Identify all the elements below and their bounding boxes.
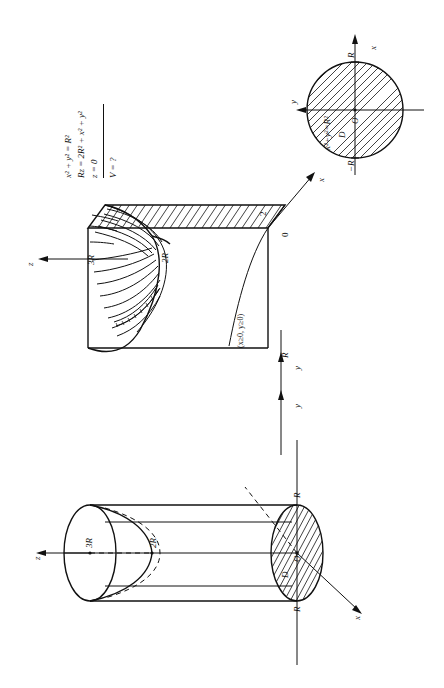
cylinder-origin-label: O	[292, 556, 302, 563]
cylinder-label-2R: 2R	[148, 538, 158, 548]
cylinder-label-R-bottom: R	[292, 607, 302, 613]
cylinder-paraboloid	[36, 505, 297, 601]
figure-page: x² + y² = R² Rz = 2R² + x² + y² z = 0 V …	[0, 0, 444, 688]
cylinder-axis-x-label: x	[352, 616, 362, 620]
cylinder-label-R-top: R	[292, 493, 302, 499]
cylinder-region-label: D	[280, 572, 290, 579]
cylinder-axis-z-label: z	[32, 556, 42, 560]
cylinder-label-3R: 3R	[84, 538, 94, 548]
cylinder-diagram-svg	[0, 0, 444, 688]
cylinder-face-hatching	[214, 470, 396, 620]
